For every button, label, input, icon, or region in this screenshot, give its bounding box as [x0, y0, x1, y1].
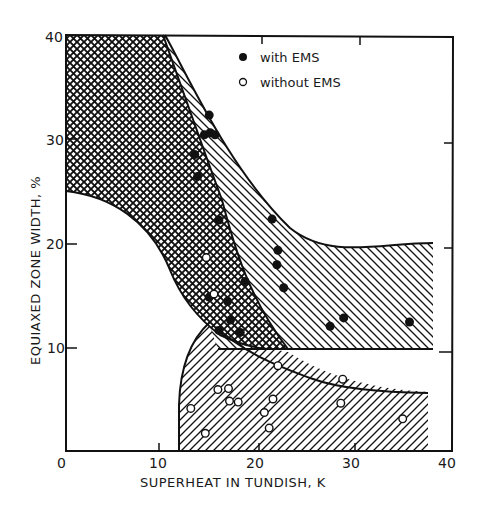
data-point [214, 386, 222, 394]
x-tick-label: 10 [149, 455, 167, 471]
x-tick-label: 0 [57, 455, 66, 471]
data-point [273, 246, 282, 255]
data-point [272, 260, 281, 269]
data-point [226, 397, 234, 405]
data-point [241, 277, 250, 286]
data-point [223, 297, 232, 306]
legend-open-marker [240, 79, 247, 86]
x-tick-label: 40 [438, 455, 456, 471]
data-point [210, 290, 218, 298]
chart: 0 10 20 30 40 10 20 30 40 SUPERHEAT IN T… [0, 0, 479, 512]
data-point [202, 430, 210, 438]
y-axis-title: EQUIAXED ZONE WIDTH, % [28, 176, 43, 365]
data-point [187, 405, 195, 413]
data-point [225, 385, 233, 393]
legend: with EMS without EMS [239, 50, 341, 90]
y-tick-label: 40 [45, 29, 63, 45]
data-point [339, 313, 348, 322]
data-point [214, 216, 223, 225]
x-tick-label: 20 [246, 455, 264, 471]
legend-filled-marker [239, 53, 247, 61]
y-tick-label: 20 [46, 236, 64, 252]
legend-label-with-ems: with EMS [260, 50, 319, 65]
data-point [193, 172, 202, 181]
y-tick-label: 30 [46, 132, 64, 148]
x-tick-label: 30 [342, 455, 360, 471]
data-point [268, 215, 277, 224]
y-tick-label: 10 [47, 340, 65, 356]
data-point [279, 283, 288, 292]
data-point [203, 254, 211, 262]
data-point [205, 111, 214, 120]
data-point [399, 415, 407, 423]
data-point [211, 130, 220, 139]
x-axis-title: SUPERHEAT IN TUNDISH, K [140, 475, 326, 490]
legend-label-without-ems: without EMS [260, 75, 341, 90]
data-point [190, 150, 199, 159]
data-point [265, 424, 273, 432]
data-point [214, 326, 223, 335]
data-point [226, 316, 235, 325]
data-point [405, 318, 414, 327]
data-point [261, 409, 269, 417]
data-point [274, 362, 282, 370]
data-point [269, 395, 277, 403]
data-point [326, 322, 335, 331]
data-point [337, 399, 345, 407]
data-point [339, 375, 347, 383]
data-point [234, 398, 242, 406]
data-point [236, 328, 245, 337]
